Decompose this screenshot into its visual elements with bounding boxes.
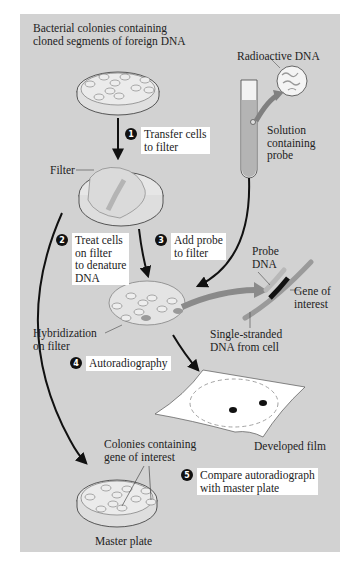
step-1: 1 Transfer cells to filter [125, 127, 210, 154]
master-plate-icon [77, 466, 157, 527]
step-number-badge: 5 [181, 469, 193, 481]
gene-of-interest-label: Gene of interest [294, 285, 331, 310]
title-label: Bacterial colonies containing cloned seg… [33, 22, 186, 47]
step-4-text: Autoradiography [86, 356, 171, 371]
developed-film-label: Developed film [254, 440, 326, 453]
hybridization-filter-icon [105, 281, 185, 333]
test-tube-icon [241, 80, 257, 178]
master-plate-label: Master plate [95, 535, 152, 548]
colonies-gene-label: Colonies containing gene of interest [104, 438, 196, 463]
step-5: 5 Compare autoradiograph with master pla… [181, 468, 318, 495]
probe-dna-label: Probe DNA [252, 245, 279, 270]
step-number-badge: 4 [70, 357, 82, 369]
step-5-text: Compare autoradiograph with master plate [197, 468, 318, 495]
filter-label: Filter [50, 164, 75, 177]
step-2: 2 Treat cells on filter to denature DNA [56, 233, 129, 285]
step-3-text: Add probe to filter [171, 233, 226, 260]
solution-label: Solution containing probe [267, 124, 316, 162]
step-4: 4 Autoradiography [70, 356, 171, 371]
radioactive-dna-icon [270, 58, 307, 96]
step-3: 3 Add probe to filter [155, 233, 226, 260]
step-number-badge: 1 [125, 128, 137, 140]
step-2-text: Treat cells on filter to denature DNA [72, 233, 129, 285]
step-number-badge: 2 [56, 234, 68, 246]
developed-film-icon [155, 370, 305, 437]
petri-dish-icon [77, 72, 159, 115]
step-number-badge: 3 [155, 234, 167, 246]
single-stranded-label: Single-stranded DNA from cell [210, 328, 282, 353]
filter-dish-icon [76, 167, 163, 226]
hybridization-label: Hybridization on filter [33, 327, 97, 352]
step-1-text: Transfer cells to filter [141, 127, 210, 154]
radioactive-dna-label: Radioactive DNA [237, 50, 320, 63]
